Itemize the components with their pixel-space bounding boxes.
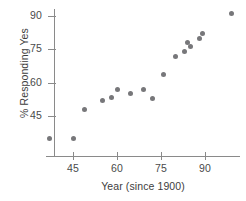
data-point: [109, 95, 114, 100]
data-point: [82, 107, 87, 112]
plot-area: 45607590 45607590 Year (since 1900) % Re…: [0, 0, 246, 201]
data-point: [141, 87, 146, 92]
x-tick-label: 60: [102, 162, 132, 174]
y-axis-title: % Responding Yes: [18, 3, 30, 143]
data-point: [71, 136, 76, 141]
y-tick-mark: [48, 49, 56, 50]
x-tick-mark: [117, 152, 118, 160]
data-point: [47, 136, 52, 141]
data-point: [173, 54, 178, 59]
scatter-plot-figure: 45607590 45607590 Year (since 1900) % Re…: [0, 0, 246, 201]
x-tick-mark: [73, 152, 74, 160]
data-point: [188, 44, 193, 49]
x-tick-label: 90: [190, 162, 220, 174]
data-point: [200, 31, 205, 36]
x-tick-label: 75: [146, 162, 176, 174]
data-point: [182, 49, 187, 54]
y-tick-mark: [48, 116, 56, 117]
data-point: [128, 91, 133, 96]
data-point: [115, 87, 120, 92]
data-point: [229, 11, 234, 16]
x-tick-mark: [205, 152, 206, 160]
x-axis-title: Year (since 1900): [46, 180, 240, 192]
x-tick-label: 45: [58, 162, 88, 174]
y-tick-mark: [48, 16, 56, 17]
data-point: [150, 96, 155, 101]
x-tick-mark: [161, 152, 162, 160]
data-point: [161, 72, 166, 77]
x-axis-line: [46, 156, 240, 157]
y-tick-mark: [48, 83, 56, 84]
data-point: [100, 98, 105, 103]
data-point: [197, 36, 202, 41]
